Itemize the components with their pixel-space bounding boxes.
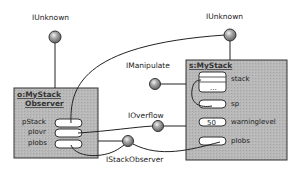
ioverflow-label: IOverflow <box>128 111 164 120</box>
imanipulate-label: IManipulate <box>126 61 170 70</box>
field-piobs-label-stack: pIobs <box>231 137 250 145</box>
stack-object-box: s:MyStack ... stack sp 50 warninglevel p… <box>186 60 287 160</box>
iunknown-left-lollipop-icon <box>49 31 61 43</box>
field-warninglevel-value: 50 <box>207 119 216 127</box>
stack-ellipsis: ... <box>210 84 217 92</box>
iunknown-right-lollipop-icon <box>224 29 236 41</box>
field-piovr-label: pIovr <box>28 128 46 136</box>
observer-object-box: o:MyStack Observer pStack pIovr pIobs <box>14 88 98 158</box>
field-pstack-slot <box>55 119 82 127</box>
iunknown-right-label: IUnknown <box>206 12 243 21</box>
observer-title-line1: o:MyStack <box>17 90 62 99</box>
field-warninglevel-label: warninglevel <box>231 118 276 126</box>
field-sp-label: sp <box>231 100 240 108</box>
istackobserver-lollipop-icon <box>123 136 134 147</box>
iunknown-left-label: IUnknown <box>32 13 69 22</box>
ioverflow-lollipop-icon <box>153 121 164 132</box>
stack-title: s:MyStack <box>189 61 233 70</box>
istackobserver-label: IStackObserver <box>106 155 164 164</box>
field-piobs-label: pIobs <box>28 139 47 147</box>
component-diagram: o:MyStack Observer pStack pIovr pIobs s:… <box>0 0 300 179</box>
field-piobs-slot <box>55 140 82 148</box>
field-pstack-label: pStack <box>22 118 47 126</box>
field-piovr-slot <box>55 129 82 137</box>
observer-title-line2: Observer <box>25 99 64 108</box>
field-sp-slot <box>199 100 226 108</box>
imanipulate-lollipop-icon <box>150 79 161 90</box>
field-stack-label: stack <box>231 75 251 83</box>
